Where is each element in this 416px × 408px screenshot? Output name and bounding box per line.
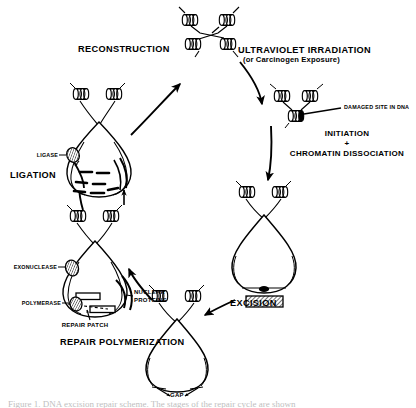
label-polymerase: POLYMERASE	[22, 300, 61, 306]
label-ultraviolet-irradiation: ULTRAVIOLET IRRADIATION	[238, 45, 371, 55]
repair-patch-block-2	[90, 306, 115, 313]
label-excision: EXCISION	[230, 298, 277, 308]
label-repair-polymerization: REPAIR POLYMERIZATION	[60, 337, 185, 347]
figure-caption-strip: Figure 1. DNA excision repair scheme. Th…	[0, 400, 416, 408]
label-ligation: LIGATION	[10, 170, 56, 180]
label-nuclear-proteins-line2: PROTEINS	[134, 297, 167, 304]
figure-caption: Figure 1. DNA excision repair scheme. Th…	[8, 400, 296, 408]
label-repair-patch: REPAIR PATCH	[62, 322, 109, 329]
label-damaged-site-in-dna: DAMAGED SITE IN DNA	[344, 104, 409, 110]
label-gap: GAP	[170, 392, 184, 399]
label-initiation: INITIATION	[325, 130, 370, 139]
label-carcinogen-exposure: (or Carcinogen Exposure)	[243, 56, 340, 65]
label-exonuclease: EXONUCLEASE	[14, 264, 57, 270]
label-ligase: LIGASE	[37, 152, 58, 158]
label-plus-sign: +	[345, 140, 350, 149]
label-nuclear-proteins-line1: NUCLEAR	[134, 289, 165, 296]
label-chromatin-dissociation: CHROMATIN DISSOCIATION	[290, 150, 404, 159]
label-reconstruction: RECONSTRUCTION	[78, 44, 170, 54]
dna-repair-cycle-figure: RECONSTRUCTION ULTRAVIOLET IRRADIATION (…	[0, 0, 416, 408]
